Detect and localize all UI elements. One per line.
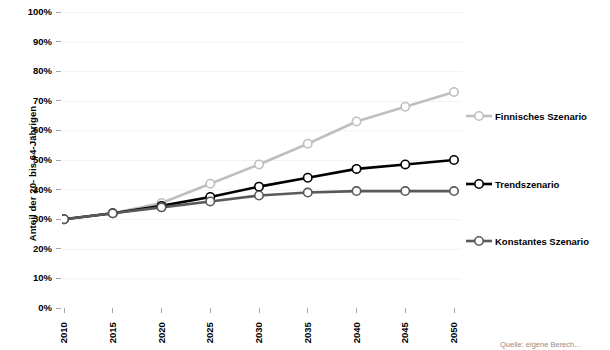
data-point[interactable]	[352, 187, 360, 195]
y-tick-mark	[56, 308, 61, 309]
y-tick-mark	[56, 189, 61, 190]
legend-marker-icon	[466, 178, 492, 190]
x-tick-label: 2025	[206, 310, 216, 350]
data-point[interactable]	[255, 191, 263, 199]
y-tick-mark	[56, 12, 61, 13]
x-axis-tick-labels: 201020152020202520302035204020452050	[62, 308, 462, 350]
legend-entry[interactable]: Konstantes Szenario	[466, 235, 589, 247]
y-tick-mark	[56, 130, 61, 131]
data-point[interactable]	[304, 140, 312, 148]
legend-entry[interactable]: Finnisches Szenario	[466, 110, 587, 122]
y-tick-mark	[56, 160, 61, 161]
data-point[interactable]	[401, 160, 409, 168]
data-point[interactable]	[255, 160, 263, 168]
legend-label: Konstantes Szenario	[495, 236, 589, 247]
plot-area	[62, 12, 462, 308]
y-tick-label: 50%	[16, 155, 52, 165]
data-point[interactable]	[109, 209, 117, 217]
data-point[interactable]	[401, 187, 409, 195]
data-point[interactable]	[352, 165, 360, 173]
data-point[interactable]	[206, 197, 214, 205]
x-tick-mark	[307, 308, 308, 313]
y-tick-label: 20%	[16, 244, 52, 254]
data-point[interactable]	[206, 179, 214, 187]
data-point[interactable]	[62, 215, 68, 223]
y-tick-label: 10%	[16, 273, 52, 283]
x-tick-mark	[210, 308, 211, 313]
y-tick-mark	[56, 100, 61, 101]
data-point[interactable]	[304, 174, 312, 182]
legend-label: Trendszenario	[495, 179, 559, 190]
y-tick-label: 60%	[16, 125, 52, 135]
y-tick-label: 30%	[16, 214, 52, 224]
y-tick-label: 90%	[16, 37, 52, 47]
y-tick-mark	[56, 248, 61, 249]
x-tick-mark	[356, 308, 357, 313]
y-tick-mark	[56, 41, 61, 42]
legend-entry[interactable]: Trendszenario	[466, 178, 559, 190]
data-point[interactable]	[450, 187, 458, 195]
legend-marker-icon	[466, 110, 492, 122]
line-chart: Anteil der 20- bis 64-Jährigen 100%90%80…	[0, 0, 610, 350]
data-point[interactable]	[157, 203, 165, 211]
x-tick-label: 2050	[449, 310, 459, 350]
y-tick-label: 100%	[16, 7, 52, 17]
y-tick-mark	[56, 71, 61, 72]
y-tick-label: 0%	[16, 303, 52, 313]
y-axis-tick-labels: 100%90%80%70%60%50%40%30%20%10%0%	[0, 0, 52, 350]
data-point[interactable]	[401, 103, 409, 111]
x-tick-mark	[454, 308, 455, 313]
data-point[interactable]	[450, 156, 458, 164]
source-note: Quelle: eigene Berech...	[500, 340, 580, 349]
x-tick-label: 2030	[254, 310, 264, 350]
y-tick-label: 40%	[16, 185, 52, 195]
x-tick-mark	[405, 308, 406, 313]
x-tick-label: 2010	[59, 310, 69, 350]
y-tick-mark	[56, 278, 61, 279]
legend-label: Finnisches Szenario	[495, 111, 587, 122]
y-tick-label: 70%	[16, 96, 52, 106]
data-point[interactable]	[450, 88, 458, 96]
y-tick-mark	[56, 219, 61, 220]
x-tick-label: 2035	[303, 310, 313, 350]
y-tick-label: 80%	[16, 66, 52, 76]
x-tick-label: 2015	[108, 310, 118, 350]
legend-marker-icon	[466, 235, 492, 247]
x-tick-mark	[112, 308, 113, 313]
x-tick-label: 2020	[157, 310, 167, 350]
x-tick-label: 2045	[401, 310, 411, 350]
x-tick-mark	[259, 308, 260, 313]
data-point[interactable]	[352, 117, 360, 125]
x-tick-label: 2040	[352, 310, 362, 350]
x-tick-mark	[161, 308, 162, 313]
x-tick-mark	[64, 308, 65, 313]
plot-svg	[62, 12, 462, 308]
data-point[interactable]	[255, 182, 263, 190]
data-point[interactable]	[304, 188, 312, 196]
chart-legend: Finnisches SzenarioTrendszenarioKonstant…	[466, 0, 610, 350]
